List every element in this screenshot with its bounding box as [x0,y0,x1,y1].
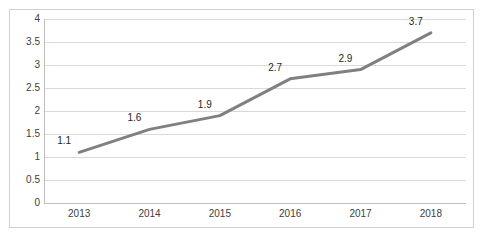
x-axis-tick-label: 2018 [401,208,461,219]
x-axis-tick-label: 2016 [260,208,320,219]
data-point-label: 1.9 [198,99,212,110]
data-point-label: 3.7 [409,16,423,27]
y-axis-tick-label: 2.5 [6,82,40,93]
x-axis-tick-label: 2017 [331,208,391,219]
data-point-label: 1.1 [57,135,71,146]
data-point-label: 1.6 [128,112,142,123]
line-chart: 00.511.522.533.54 2013201420152016201720… [0,0,485,243]
y-axis-tick-label: 0 [6,197,40,208]
y-axis-tick-label: 3.5 [6,36,40,47]
x-axis-tick-label: 2014 [120,208,180,219]
data-point-label: 2.9 [339,53,353,64]
x-axis-tick-label: 2015 [190,208,250,219]
y-axis-tick-label: 1.5 [6,128,40,139]
data-point-label: 2.7 [268,62,282,73]
x-axis-tick-label: 2013 [49,208,109,219]
y-axis-tick-label: 4 [6,13,40,24]
y-axis-tick-label: 2 [6,105,40,116]
y-axis-tick-label: 0.5 [6,174,40,185]
y-axis-tick-label: 3 [6,59,40,70]
chart-border [9,9,474,228]
y-axis-tick-label: 1 [6,151,40,162]
